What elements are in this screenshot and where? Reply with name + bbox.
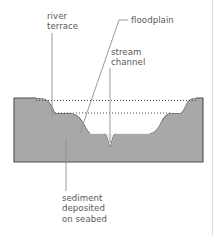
figure-right-border bbox=[212, 0, 213, 236]
label-sediment-deposited-on-seabed: sediment deposited on seabed bbox=[62, 193, 107, 224]
label-stream-channel: stream channel bbox=[111, 47, 145, 68]
label-floodplain: floodplain bbox=[131, 15, 174, 25]
river-valley-cross-section-figure: river terrace floodplain stream channel … bbox=[0, 0, 213, 236]
label-river-terrace: river terrace bbox=[47, 11, 78, 32]
